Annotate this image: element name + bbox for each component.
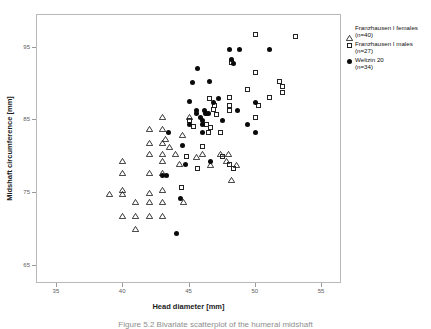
data-point [159,129,165,135]
data-point [245,87,250,92]
data-point [146,129,152,135]
data-point [218,130,223,135]
x-tick-label: 35 [53,288,60,294]
legend-circle-icon [345,57,354,66]
data-point [200,144,205,149]
y-tick-label: 95 [18,44,30,50]
plot-frame [36,14,341,283]
legend-text: Franzhausen I males(n=27) [355,41,413,55]
x-tick-label: 55 [318,288,325,294]
data-point [228,180,234,186]
y-tick-label: 85 [18,116,30,122]
data-point [226,154,232,160]
data-point [207,79,212,84]
data-point [220,154,225,159]
legend-square-icon [345,41,354,50]
legend-item: Franzhausen I males(n=27) [345,41,429,55]
data-point [180,143,185,148]
data-point [206,111,211,116]
y-tick-mark [32,265,36,266]
data-point [267,95,272,100]
data-point [280,84,285,89]
data-point [133,202,139,208]
y-tick-label: 65 [18,262,30,268]
data-point [280,90,285,95]
data-point [146,143,152,149]
data-point [195,166,200,171]
data-point [120,194,126,200]
data-point [253,70,258,75]
data-point [166,147,172,153]
data-point [181,202,187,208]
data-point [159,161,165,167]
x-tick-label: 40 [119,288,126,294]
x-tick-label: 45 [185,288,192,294]
data-point [220,118,225,123]
data-point [177,164,183,170]
data-point [237,47,242,52]
x-tick-label: 50 [251,288,258,294]
data-point [208,159,213,164]
data-point [159,202,165,208]
data-point [146,216,152,222]
data-point [211,100,216,105]
plot-area [37,15,340,282]
legend-count: (n=27) [355,48,413,55]
legend-triangle-icon [345,25,354,34]
legend-item: Franzhausen I females(n=40) [345,25,429,39]
data-point [120,161,126,167]
data-point [227,47,232,52]
data-point [178,196,183,201]
data-point [184,154,189,159]
legend-text: Weltzin 20(n=34) [355,57,384,71]
data-point [179,135,185,141]
data-point [179,185,184,190]
data-point [231,166,236,171]
data-point [190,80,195,85]
x-tick-mark [122,283,123,287]
legend: Franzhausen I females(n=40)Franzhausen I… [345,25,429,73]
data-point [277,79,282,84]
figure-container: 354045505595857565 Head diameter [mm] Mi… [0,0,431,329]
data-point [146,173,152,179]
data-point [120,173,126,179]
x-tick-mark [56,283,57,287]
data-point [166,130,171,135]
y-tick-label: 75 [18,189,30,195]
data-point [227,108,232,113]
legend-text: Franzhausen I females(n=40) [355,25,418,39]
data-point [174,231,179,236]
data-point [253,115,258,120]
data-point [216,96,221,101]
y-axis-label-text: Midshaft circumference [mm] [5,96,14,201]
data-point [253,130,258,135]
data-point [199,154,205,160]
y-tick-mark [32,47,36,48]
data-point [133,229,139,235]
data-point [146,154,152,160]
data-point [146,202,152,208]
data-point [206,130,211,135]
legend-count: (n=40) [355,32,418,39]
data-point [214,112,219,117]
data-point [164,173,169,178]
data-point [159,216,165,222]
data-point [235,108,240,113]
x-tick-mark [321,283,322,287]
data-point [173,154,179,160]
data-point [187,99,192,104]
x-tick-mark [255,283,256,287]
y-axis-label: Midshaft circumference [mm] [2,14,16,283]
legend-item: Weltzin 20(n=34) [345,57,429,71]
data-point [159,117,165,123]
data-point [200,130,205,135]
data-point [159,190,165,196]
legend-count: (n=34) [355,64,384,71]
y-tick-mark [32,192,36,193]
data-point [208,125,213,130]
data-point [227,95,232,100]
data-point [231,61,236,66]
x-tick-mark [189,283,190,287]
data-point [207,165,213,171]
x-axis-label: Head diameter [mm] [36,302,341,311]
